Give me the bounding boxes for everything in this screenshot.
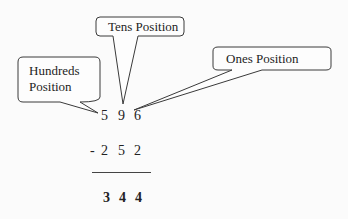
minuend-hundreds-digit: 5 bbox=[101, 108, 108, 124]
result-hundreds-digit: 3 bbox=[103, 190, 110, 206]
subtrahend-tens-digit: 5 bbox=[118, 143, 125, 159]
tens-position-label: Tens Position bbox=[108, 19, 178, 35]
subtrahend-hundreds-digit: 2 bbox=[101, 143, 108, 159]
subtrahend-ones-digit: 2 bbox=[134, 143, 141, 159]
minuend-ones-digit: 6 bbox=[134, 108, 141, 124]
ones-position-label: Ones Position bbox=[226, 51, 299, 67]
hundreds-position-label-line2: Position bbox=[29, 79, 72, 95]
minuend-tens-digit: 9 bbox=[118, 108, 125, 124]
hundreds-position-label-line1: Hundreds bbox=[29, 63, 80, 79]
result-ones-digit: 4 bbox=[135, 190, 142, 206]
minus-operator: - bbox=[90, 143, 95, 159]
result-tens-digit: 4 bbox=[119, 190, 126, 206]
sum-line bbox=[92, 172, 151, 173]
